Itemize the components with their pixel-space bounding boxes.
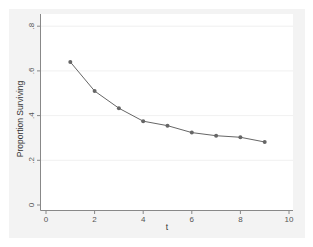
x-tick-label: 10 — [285, 215, 294, 224]
y-tick-label: .2 — [27, 156, 36, 163]
y-axis-title: Proportion Surviving — [15, 80, 25, 157]
x-tick-label: 2 — [92, 215, 97, 224]
x-axis-title: t — [166, 222, 169, 232]
data-point-marker — [117, 106, 121, 110]
line-chart: 0.2.4.6.80246810 Proportion Surviving t — [0, 0, 313, 247]
plot-area — [41, 14, 293, 210]
x-tick-label: 4 — [141, 215, 146, 224]
data-point-marker — [141, 119, 145, 123]
y-tick-label: .8 — [27, 22, 36, 29]
data-point-marker — [68, 60, 72, 64]
data-point-marker — [238, 135, 242, 139]
data-point-marker — [263, 140, 267, 144]
data-point-marker — [214, 134, 218, 138]
y-tick-label: 0 — [27, 202, 36, 207]
x-tick-label: 6 — [190, 215, 195, 224]
x-tick-label: 0 — [44, 215, 49, 224]
data-point-marker — [166, 124, 170, 128]
data-point-marker — [190, 131, 194, 135]
y-tick-label: .4 — [27, 112, 36, 119]
x-tick-label: 8 — [238, 215, 243, 224]
y-tick-label: .6 — [27, 67, 36, 74]
data-point-marker — [93, 89, 97, 93]
